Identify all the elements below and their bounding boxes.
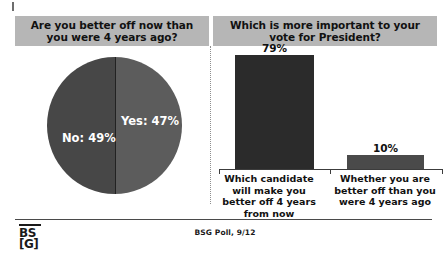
scan-corner-mark [12, 2, 14, 11]
bsg-logo: BS [G] [19, 224, 45, 253]
left-panel-title-banner: Are you better off now than you were 4 y… [15, 16, 209, 46]
poll-slide: Are you better off now than you were 4 y… [0, 0, 447, 260]
pie-slice-label-yes: Yes: 47% [121, 114, 179, 128]
source-note: BSG Poll, 9/12 [160, 228, 290, 237]
bar-value-label-1: 10% [347, 142, 424, 154]
bar-category-label-0: Which candidate will make you better off… [216, 173, 322, 219]
panel-divider [210, 46, 211, 204]
axis-tick-right [442, 169, 443, 174]
bar-chart: 79% 10% [219, 50, 443, 170]
pie-chart: No: 49% Yes: 47% [47, 57, 182, 194]
pie-slice-no [47, 57, 115, 194]
footer-divider [15, 219, 432, 220]
pie-slice-divider [115, 57, 116, 194]
pie-slice-label-no: No: 49% [62, 131, 116, 145]
bar-candidate-better-off [235, 55, 314, 169]
left-panel-title: Are you better off now than you were 4 y… [15, 19, 209, 43]
logo-bottom-text: [G] [19, 238, 38, 250]
bar-category-label-1: Whether you are better off than you were… [330, 173, 440, 208]
right-panel-title: Which is more important to your vote for… [213, 19, 437, 43]
bar-whether-better-off [347, 155, 424, 169]
bar-chart-baseline [219, 169, 443, 170]
bar-value-label-0: 79% [235, 42, 314, 54]
